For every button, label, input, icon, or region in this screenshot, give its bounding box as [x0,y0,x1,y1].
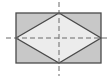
geometry-diagram [0,0,109,81]
